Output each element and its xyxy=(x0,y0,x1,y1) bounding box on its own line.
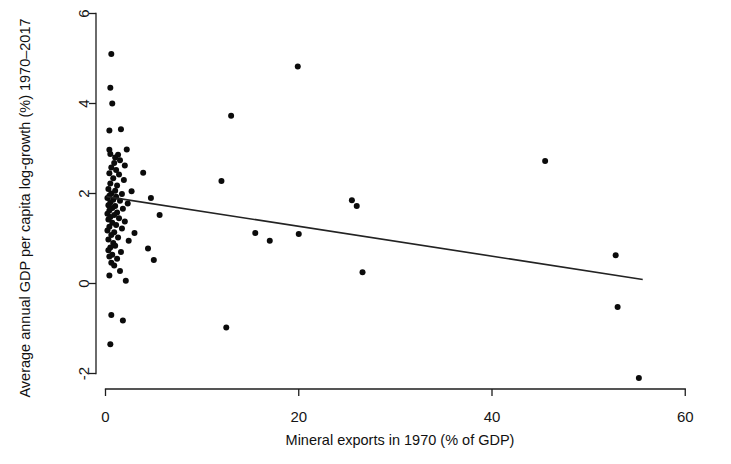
scatter-point xyxy=(613,252,619,258)
x-axis-title: Mineral exports in 1970 (% of GDP) xyxy=(286,432,515,448)
y-tick-label: 2 xyxy=(75,189,92,197)
scatter-point xyxy=(121,177,127,183)
scatter-point xyxy=(106,128,112,134)
scatter-point xyxy=(122,218,128,224)
scatter-point xyxy=(118,126,124,132)
y-tick-label: 4 xyxy=(75,99,92,107)
scatter-point xyxy=(116,172,122,178)
scatter-point xyxy=(105,236,111,242)
scatter-point xyxy=(120,317,126,323)
scatter-point xyxy=(111,263,117,269)
scatter-point xyxy=(223,325,229,331)
scatter-point xyxy=(113,222,119,228)
scatter-point xyxy=(118,249,124,255)
scatter-plot-svg: -20246 0204060 Average annual GDP per ca… xyxy=(0,0,731,464)
scatter-point xyxy=(228,113,234,119)
scatter-point xyxy=(123,278,129,284)
scatter-point xyxy=(354,203,360,209)
scatter-point xyxy=(349,197,355,203)
scatter-point xyxy=(107,151,113,157)
scatter-point xyxy=(117,157,123,163)
x-tick-label: 0 xyxy=(101,408,109,425)
scatter-point xyxy=(106,254,112,260)
scatter-point xyxy=(106,272,112,278)
scatter-point xyxy=(636,375,642,381)
scatter-point xyxy=(131,230,137,236)
scatter-point xyxy=(126,238,132,244)
x-tick-label: 40 xyxy=(484,408,501,425)
scatter-point xyxy=(110,175,116,181)
scatter-point xyxy=(114,182,120,188)
scatter-point xyxy=(107,181,113,187)
scatter-point xyxy=(148,195,154,201)
scatter-point xyxy=(151,257,157,263)
scatter-point xyxy=(119,191,125,197)
scatter-point xyxy=(107,85,113,91)
scatter-point xyxy=(122,163,128,169)
scatter-point xyxy=(542,158,548,164)
y-tick-label: 6 xyxy=(75,9,92,17)
scatter-point xyxy=(296,231,302,237)
y-tick-label: 0 xyxy=(75,279,92,287)
scatter-point xyxy=(108,51,114,57)
scatter-point xyxy=(124,146,130,152)
scatter-point xyxy=(140,170,146,176)
scatter-point xyxy=(117,268,123,274)
scatter-point xyxy=(157,212,163,218)
scatter-point xyxy=(119,226,125,232)
scatter-point xyxy=(145,245,151,251)
scatter-point xyxy=(129,188,135,194)
scatter-point xyxy=(252,230,258,236)
scatter-point xyxy=(106,170,112,176)
y-axis-title: Average annual GDP per capita log-growth… xyxy=(17,18,33,397)
scatter-point xyxy=(108,312,114,318)
scatter-point xyxy=(125,200,131,206)
scatter-point xyxy=(115,235,121,241)
scatter-point xyxy=(107,341,113,347)
scatter-point xyxy=(615,304,621,310)
scatter-point xyxy=(295,64,301,70)
scatter-point xyxy=(116,215,122,221)
scatter-point xyxy=(109,101,115,107)
x-tick-label: 20 xyxy=(290,408,307,425)
scatter-figure: -20246 0204060 Average annual GDP per ca… xyxy=(0,0,731,464)
scatter-point xyxy=(120,206,126,212)
scatter-point xyxy=(218,178,224,184)
x-tick-label: 60 xyxy=(677,408,694,425)
scatter-point xyxy=(267,238,273,244)
y-tick-label: -2 xyxy=(75,367,92,380)
scatter-point xyxy=(114,256,120,262)
scatter-point xyxy=(360,269,366,275)
